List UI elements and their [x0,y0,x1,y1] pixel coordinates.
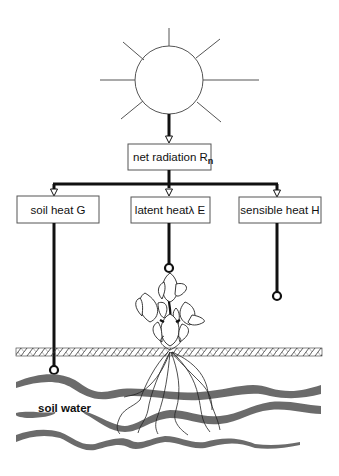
net-radiation-box: net radiation Rn [128,144,213,170]
sensible-heat-box: sensible heat H [239,197,321,223]
latent-heat-label: latent heatλ E [135,204,206,216]
soil-heat-box: soil heat G [17,196,99,223]
sensible-heat-flux-line [273,223,281,300]
plant-icon [136,273,205,346]
distribution-connector [51,170,281,197]
latent-heat-flux-line [165,223,173,272]
energy-balance-diagram: net radiation Rn soil heat G latent heat… [0,0,339,476]
sensible-heat-label: sensible heat H [240,204,319,216]
soil-water-label: soil water [38,402,92,414]
latent-heat-box: latent heatλ E [131,197,210,223]
soil-heat-label: soil heat G [31,204,86,216]
sun-icon [100,28,259,122]
arrow-sun-to-net-radiation [166,114,173,143]
